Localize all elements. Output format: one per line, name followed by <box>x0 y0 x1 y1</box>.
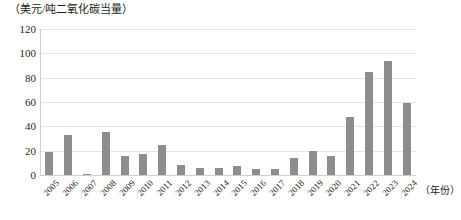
bar <box>403 103 411 175</box>
x-tick-label: 2015 <box>230 178 250 198</box>
bar <box>177 165 185 175</box>
x-tick-label: 2005 <box>42 178 62 198</box>
bar <box>196 168 204 175</box>
bar <box>139 154 147 175</box>
bars-layer <box>40 29 416 175</box>
x-tick-label: 2014 <box>211 178 231 198</box>
bar <box>327 156 335 175</box>
x-tick-label: 2020 <box>324 178 344 198</box>
x-tick-label: 2023 <box>380 178 400 198</box>
bar <box>64 135 72 175</box>
x-tick-label: 2012 <box>173 178 193 198</box>
x-axis-tick-labels: 2005200620072008200920102011201220132014… <box>40 176 416 216</box>
bar <box>346 117 354 175</box>
x-tick-label: 2019 <box>305 178 325 198</box>
x-tick-label: 2018 <box>286 178 306 198</box>
bar <box>271 169 279 175</box>
y-tick-label: 120 <box>2 24 36 35</box>
y-tick-label: 0 <box>2 170 36 181</box>
x-tick-label: 2009 <box>117 178 137 198</box>
x-tick-label: 2024 <box>399 178 419 198</box>
bar <box>215 168 223 175</box>
y-tick-label: 60 <box>2 97 36 108</box>
bar <box>309 151 317 175</box>
bar <box>158 145 166 175</box>
bar <box>252 169 260 175</box>
x-tick-label: 2006 <box>60 178 80 198</box>
x-tick-label: 2021 <box>342 178 362 198</box>
x-tick-label: 2022 <box>361 178 381 198</box>
x-tick-label: 2017 <box>267 178 287 198</box>
bar <box>45 152 53 175</box>
bar <box>83 174 91 175</box>
y-tick-label: 20 <box>2 145 36 156</box>
bar <box>365 72 373 175</box>
x-tick-label: 2016 <box>248 178 268 198</box>
x-tick-label: 2008 <box>98 178 118 198</box>
y-axis-tick-labels: 020406080100120 <box>0 29 36 175</box>
y-axis-unit-label: （美元/吨二氧化碳当量） <box>9 3 133 16</box>
bar <box>102 132 110 175</box>
x-tick-label: 2013 <box>192 178 212 198</box>
bar <box>290 158 298 175</box>
y-tick-label: 80 <box>2 72 36 83</box>
bar-chart-figure: （美元/吨二氧化碳当量） 020406080100120 20052006200… <box>0 0 461 220</box>
x-tick-label: 2010 <box>136 178 156 198</box>
bar <box>384 61 392 175</box>
x-tick-label: 2007 <box>79 178 99 198</box>
y-tick-label: 100 <box>2 48 36 59</box>
bar <box>233 166 241 175</box>
y-tick-label: 40 <box>2 121 36 132</box>
bar <box>121 156 129 175</box>
x-axis-title: （年份） <box>420 185 460 196</box>
x-tick-label: 2011 <box>155 178 175 198</box>
